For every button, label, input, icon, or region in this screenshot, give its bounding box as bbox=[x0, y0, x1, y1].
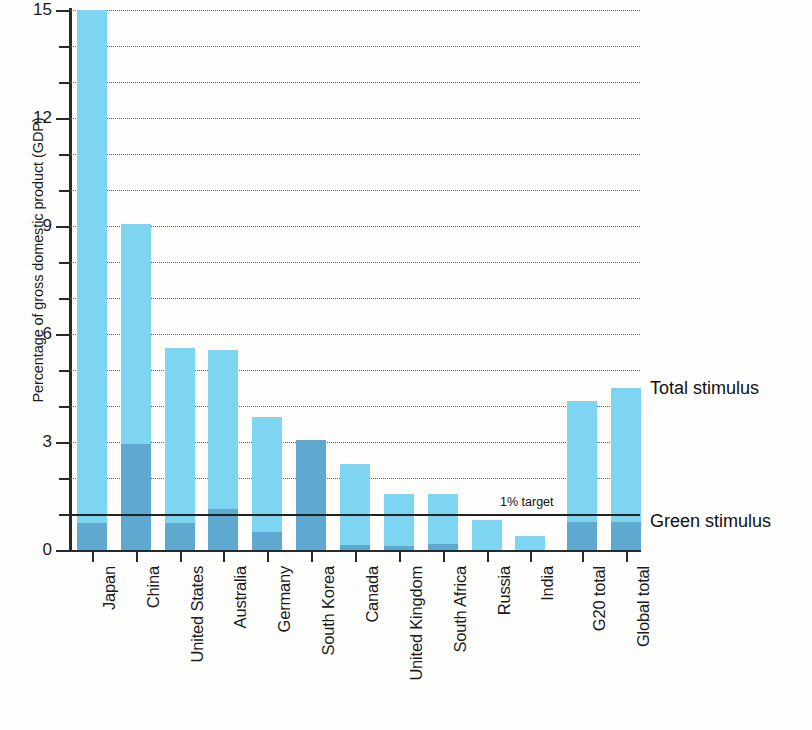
gridline bbox=[70, 406, 640, 407]
gridline bbox=[70, 334, 640, 335]
x-axis-tick bbox=[355, 550, 357, 562]
y-axis-tick bbox=[59, 190, 70, 192]
y-axis-line bbox=[69, 8, 72, 552]
y-axis-tick bbox=[59, 82, 70, 84]
y-axis-tick bbox=[56, 442, 70, 444]
x-axis-label: India bbox=[538, 566, 557, 601]
y-axis-tick bbox=[56, 226, 70, 228]
gridline bbox=[70, 82, 640, 83]
bar-g20-total bbox=[567, 401, 597, 550]
y-axis-tick-label: 3 bbox=[43, 432, 52, 452]
bar-canada bbox=[340, 464, 370, 550]
gridline bbox=[70, 46, 640, 47]
x-axis-tick bbox=[626, 550, 628, 562]
bar-south-africa bbox=[428, 494, 458, 550]
y-axis-tick bbox=[56, 550, 70, 552]
x-axis-tick bbox=[582, 550, 584, 562]
chart-figure: Percentage of gross domestic product (GD… bbox=[0, 0, 812, 730]
bar-green-segment bbox=[121, 444, 151, 550]
bar-green-segment bbox=[77, 523, 107, 550]
x-axis-tick bbox=[267, 550, 269, 562]
bar-green-segment bbox=[611, 522, 641, 550]
bar-green-segment bbox=[165, 523, 195, 550]
x-axis-label: South Korea bbox=[319, 566, 338, 656]
x-axis-tick bbox=[223, 550, 225, 562]
x-axis-label: United Kingdom bbox=[407, 566, 426, 681]
bar-germany bbox=[252, 417, 282, 550]
x-axis-tick bbox=[443, 550, 445, 562]
y-axis-tick bbox=[59, 478, 70, 480]
target-line-label: 1% target bbox=[500, 495, 554, 509]
plot-area: 03691215 1% target bbox=[70, 10, 640, 550]
y-axis-tick-label: 0 bbox=[43, 540, 52, 560]
y-axis-tick bbox=[56, 118, 70, 120]
bar-green-segment bbox=[252, 532, 282, 550]
y-axis-tick bbox=[59, 514, 70, 516]
x-axis-label: Russia bbox=[495, 566, 514, 615]
y-axis-tick bbox=[59, 154, 70, 156]
x-axis-tick bbox=[399, 550, 401, 562]
x-axis-tick bbox=[311, 550, 313, 562]
y-axis-tick-label: 12 bbox=[33, 108, 52, 128]
bar-green-segment bbox=[296, 440, 326, 550]
gridline bbox=[70, 370, 640, 371]
legend-total-stimulus: Total stimulus bbox=[650, 378, 759, 399]
x-axis-label: Canada bbox=[363, 566, 382, 623]
bar-australia bbox=[208, 350, 238, 550]
bar-green-segment bbox=[567, 522, 597, 550]
gridline bbox=[70, 10, 640, 11]
y-axis-tick bbox=[59, 298, 70, 300]
legend-green-stimulus: Green stimulus bbox=[650, 511, 771, 532]
bar-china bbox=[121, 224, 151, 550]
x-axis-label: China bbox=[144, 566, 163, 608]
y-axis-tick-label: 9 bbox=[43, 216, 52, 236]
bar-japan bbox=[77, 10, 107, 550]
x-axis-tick bbox=[180, 550, 182, 562]
gridline bbox=[70, 226, 640, 227]
y-axis-tick bbox=[56, 10, 70, 12]
x-axis-label: South Africa bbox=[451, 566, 470, 653]
y-axis-tick bbox=[56, 334, 70, 336]
gridline bbox=[70, 262, 640, 263]
x-axis-tick bbox=[530, 550, 532, 562]
x-axis-label: Japan bbox=[100, 566, 119, 610]
bar-united-kingdom bbox=[384, 494, 414, 550]
x-axis-tick bbox=[136, 550, 138, 562]
gridline bbox=[70, 442, 640, 443]
x-axis-label: G20 total bbox=[590, 566, 609, 631]
y-axis-tick bbox=[59, 46, 70, 48]
bar-russia bbox=[472, 520, 502, 550]
y-axis-tick bbox=[59, 370, 70, 372]
bar-global-total bbox=[611, 388, 641, 550]
y-axis-tick-label: 6 bbox=[43, 324, 52, 344]
bar-united-states bbox=[165, 348, 195, 550]
y-axis-tick-label: 15 bbox=[33, 0, 52, 20]
gridline bbox=[70, 190, 640, 191]
x-axis-tick bbox=[487, 550, 489, 562]
gridline bbox=[70, 118, 640, 119]
y-axis-tick bbox=[59, 262, 70, 264]
x-axis-label: United States bbox=[188, 566, 207, 662]
target-line bbox=[70, 514, 640, 516]
gridline bbox=[70, 154, 640, 155]
x-axis-label: Australia bbox=[231, 566, 250, 628]
x-axis-label: Global total bbox=[634, 566, 653, 647]
x-axis-label: Germany bbox=[275, 566, 294, 632]
y-axis-tick bbox=[59, 406, 70, 408]
bar-india bbox=[515, 536, 545, 550]
gridline bbox=[70, 298, 640, 299]
x-axis-tick bbox=[92, 550, 94, 562]
bar-south-korea bbox=[296, 440, 326, 550]
